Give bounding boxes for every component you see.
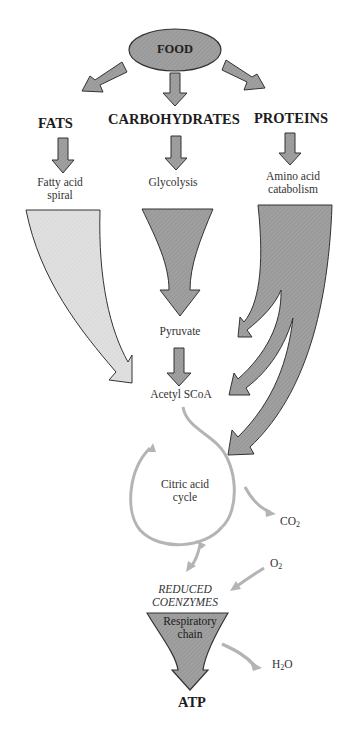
resp-line2: chain <box>155 628 225 641</box>
resp-line1: Respiratory <box>155 615 225 628</box>
amino-line1: Amino acid <box>258 170 328 183</box>
flow-chain-to-h2o <box>222 644 255 666</box>
arrow-amino-to-multiple <box>228 205 332 455</box>
food-label: FOOD <box>151 42 199 56</box>
citric-acid-cycle-label: Citric acid cycle <box>155 478 215 504</box>
arrow-fatty-acid-to-acetyl <box>26 210 132 383</box>
proteins-label: PROTEINS <box>254 110 328 127</box>
flow-cycle-to-co2 <box>245 487 270 512</box>
amino-acid-catabolism-label: Amino acid catabolism <box>258 170 328 196</box>
arrow-carbs-to-glycolysis <box>165 136 187 170</box>
arrow-food-to-proteins <box>222 60 265 90</box>
arrowhead-h2o <box>250 661 262 671</box>
citric-line2: cycle <box>155 491 215 504</box>
glycolysis-label: Glycolysis <box>143 176 203 189</box>
coenzymes-line1: REDUCED <box>145 583 225 596</box>
citric-line1: Citric acid <box>155 478 215 491</box>
arrowhead-to-co2 <box>265 508 276 517</box>
acetyl-scoa-label: Acetyl SCoA <box>148 388 214 401</box>
reduced-coenzymes-label: REDUCED COENZYMES <box>145 583 225 609</box>
o2-label: O2 <box>270 557 282 571</box>
flow-acetyl-to-cycle <box>183 407 234 527</box>
h2o-label: H2O <box>272 658 293 672</box>
respiratory-chain-label: Respiratory chain <box>155 615 225 641</box>
amino-line2: catabolism <box>258 183 328 196</box>
fatty-acid-spiral-label: Fatty acid spiral <box>30 176 90 202</box>
coenzymes-line2: COENZYMES <box>145 596 225 609</box>
fatty-acid-line1: Fatty acid <box>30 176 90 189</box>
fats-label: FATS <box>38 115 73 132</box>
arrow-food-to-fats <box>82 62 127 92</box>
co2-label: CO2 <box>280 515 300 529</box>
arrow-fats-to-fatty-acid <box>52 138 74 173</box>
flow-o2-to-coenzymes <box>236 568 264 587</box>
fatty-acid-line2: spiral <box>30 189 90 202</box>
arrow-proteins-to-amino <box>279 133 301 165</box>
arrow-pyruvate-to-acetyl <box>167 348 191 386</box>
arrow-food-to-carbs <box>163 73 187 106</box>
glycolysis-funnel-arrow <box>142 209 213 316</box>
pyruvate-label: Pyruvate <box>152 325 208 338</box>
atp-label: ATP <box>172 694 212 711</box>
carbohydrates-label: CARBOHYDRATES <box>108 111 240 128</box>
